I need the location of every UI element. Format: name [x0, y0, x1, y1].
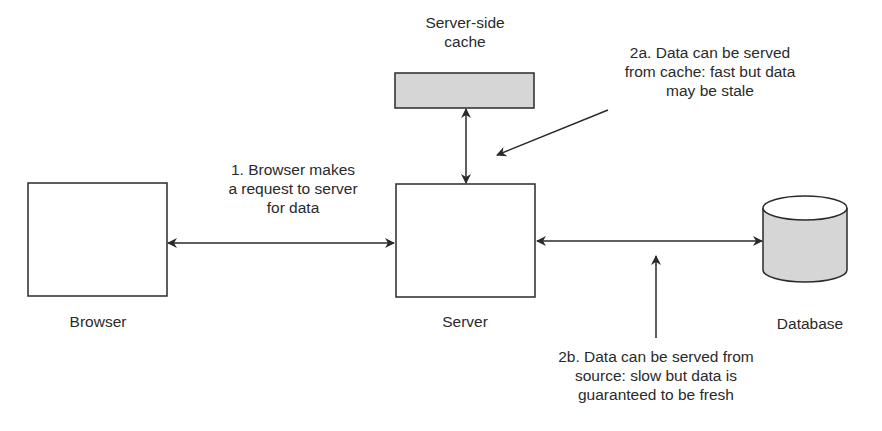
- server-box: [396, 184, 535, 297]
- step1-annotation: 1. Browser makes a request to server for…: [193, 160, 393, 217]
- step2a-annotation: 2a. Data can be served from cache: fast …: [590, 43, 830, 100]
- cache-box: [395, 73, 534, 108]
- database-label: Database: [765, 314, 855, 333]
- step2b-annotation: 2b. Data can be served from source: slow…: [526, 347, 786, 404]
- step2a-line1: 2a. Data can be served: [590, 43, 830, 62]
- step2b-line2: source: slow but data is: [526, 366, 786, 385]
- browser-box: [28, 183, 167, 296]
- step2b-line1: 2b. Data can be served from: [526, 347, 786, 366]
- cache-label-line1: Server-side: [405, 13, 525, 32]
- step1-line3: for data: [193, 198, 393, 217]
- server-label: Server: [415, 312, 515, 331]
- step1-line1: 1. Browser makes: [193, 160, 393, 179]
- step1-line2: a request to server: [193, 179, 393, 198]
- database-cylinder-icon: [763, 196, 847, 282]
- step2b-line3: guaranteed to be fresh: [526, 385, 786, 404]
- step2a-pointer-arrow: [497, 110, 608, 155]
- browser-label: Browser: [48, 312, 148, 331]
- step2a-line2: from cache: fast but data: [590, 62, 830, 81]
- cache-label-line2: cache: [405, 32, 525, 51]
- cache-label: Server-side cache: [405, 13, 525, 51]
- step2a-line3: may be stale: [590, 81, 830, 100]
